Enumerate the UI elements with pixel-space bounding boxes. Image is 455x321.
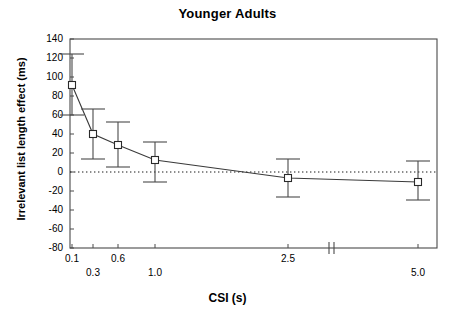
data-point-marker bbox=[90, 131, 97, 138]
data-point-marker bbox=[115, 142, 122, 149]
figure-container: Younger Adults Irrelevant list length ef… bbox=[0, 0, 455, 321]
data-point-marker bbox=[69, 82, 76, 89]
data-point-marker bbox=[415, 179, 422, 186]
x-axis-ticks bbox=[72, 244, 418, 248]
axis-frame bbox=[70, 39, 437, 248]
data-point-marker bbox=[152, 157, 159, 164]
data-point-markers bbox=[69, 82, 422, 186]
error-bars bbox=[60, 54, 430, 200]
plot-canvas bbox=[0, 0, 455, 321]
data-point-marker bbox=[285, 175, 292, 182]
